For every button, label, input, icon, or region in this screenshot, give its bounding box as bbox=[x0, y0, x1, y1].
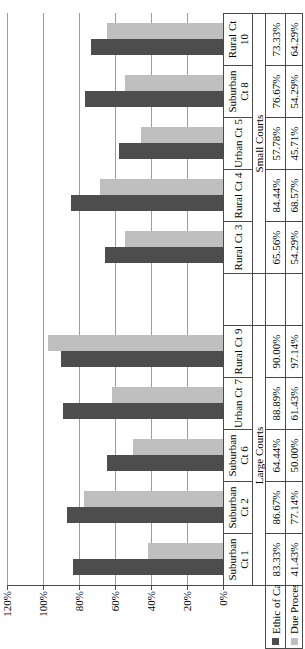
bar-due-process-2 bbox=[133, 439, 223, 455]
value-cell: 83.33% bbox=[266, 533, 285, 585]
value-row-ethic-of-care: 83.33%86.67%64.44%88.89%90.00%65.56%84.4… bbox=[265, 13, 285, 586]
gridline bbox=[43, 13, 44, 585]
value-cell: 45.71% bbox=[286, 117, 302, 169]
bar-ethic-of-care-10 bbox=[91, 39, 223, 55]
value-cell: 64.44% bbox=[266, 429, 285, 481]
group-cell: Large Courts bbox=[253, 325, 265, 585]
category-cell: Suburban Ct 6 bbox=[224, 429, 252, 481]
category-label-row: Suburban Ct 1Suburban Ct 2Suburban Ct 6U… bbox=[223, 13, 252, 586]
legend-label-ethic-of-care: Ethic of Care bbox=[270, 585, 282, 634]
axis-tick bbox=[223, 586, 224, 590]
category-cell: Suburban Ct 2 bbox=[224, 481, 252, 533]
value-cell: 88.89% bbox=[266, 377, 285, 429]
y-axis-tick-label: 0% bbox=[216, 591, 230, 649]
bar-due-process-9 bbox=[125, 75, 223, 91]
bar-ethic-of-care-7 bbox=[71, 195, 223, 211]
category-cell: Urban Ct 5 bbox=[224, 117, 252, 169]
bar-ethic-of-care-9 bbox=[85, 91, 223, 107]
value-cell: 41.43% bbox=[286, 533, 302, 585]
value-row-due-process: 41.43%77.14%50.00%61.43%97.14%54.29%68.5… bbox=[285, 13, 303, 586]
y-axis-tick-label: 60% bbox=[108, 591, 122, 649]
value-cell: 84.44% bbox=[266, 169, 285, 221]
axis-tick bbox=[7, 586, 8, 590]
value-cell: 50.00% bbox=[286, 429, 302, 481]
bar-due-process-1 bbox=[84, 491, 223, 507]
value-cell: 54.29% bbox=[286, 65, 302, 117]
axis-tick bbox=[79, 586, 80, 590]
bar-ethic-of-care-1 bbox=[67, 507, 223, 523]
value-cell: 65.56% bbox=[266, 221, 285, 273]
value-cell: 76.67% bbox=[266, 65, 285, 117]
category-cell: Suburban Ct 1 bbox=[224, 533, 252, 585]
category-cell-empty bbox=[224, 273, 252, 325]
bar-ethic-of-care-8 bbox=[119, 143, 223, 159]
value-cell: 57.78% bbox=[266, 117, 285, 169]
bar-ethic-of-care-0 bbox=[73, 559, 223, 575]
ethic-of-care-swatch-icon bbox=[272, 638, 279, 645]
category-cell: Rural Ct 3 bbox=[224, 221, 252, 273]
value-cell: 64.29% bbox=[286, 13, 302, 65]
value-cell-empty bbox=[286, 273, 302, 325]
bar-due-process-3 bbox=[112, 387, 223, 403]
category-cell: Urban Ct 7 bbox=[224, 377, 252, 429]
axis-tick bbox=[43, 586, 44, 590]
category-cell: Rural Ct 9 bbox=[224, 325, 252, 377]
axis-tick bbox=[187, 586, 188, 590]
value-cell: 90.00% bbox=[266, 325, 285, 377]
legend-label-due-process: Due Process bbox=[288, 585, 300, 634]
bar-due-process-4 bbox=[48, 335, 223, 351]
gridline bbox=[7, 13, 8, 585]
axis-tick bbox=[151, 586, 152, 590]
bar-chart: 0%20%40%60%80%100%120% Suburban Ct 1Subu… bbox=[0, 0, 305, 649]
y-axis-tick-label: 120% bbox=[0, 591, 14, 649]
value-cell: 54.29% bbox=[286, 221, 302, 273]
group-cell-empty bbox=[253, 273, 265, 325]
value-cell: 61.43% bbox=[286, 377, 302, 429]
group-cell: Small Courts bbox=[253, 13, 265, 273]
y-axis-tick-label: 20% bbox=[180, 591, 194, 649]
category-group-row: Large CourtsSmall Courts bbox=[252, 13, 265, 586]
category-cell: Suburban Ct 8 bbox=[224, 65, 252, 117]
gridline bbox=[79, 13, 80, 585]
due-process-swatch-icon bbox=[291, 638, 298, 645]
axis-tick bbox=[115, 586, 116, 590]
bar-ethic-of-care-2 bbox=[107, 455, 223, 471]
value-cell: 97.14% bbox=[286, 325, 302, 377]
legend-item-due-process: Due Process bbox=[285, 585, 303, 649]
bar-due-process-8 bbox=[141, 127, 223, 143]
category-cell: Rural Ct 4 bbox=[224, 169, 252, 221]
y-axis-tick-label: 80% bbox=[72, 591, 86, 649]
value-cell: 86.67% bbox=[266, 481, 285, 533]
bar-due-process-7 bbox=[100, 179, 223, 195]
value-cell-empty bbox=[266, 273, 285, 325]
rotated-chart-figure: 0%20%40%60%80%100%120% Suburban Ct 1Subu… bbox=[0, 0, 305, 649]
bar-due-process-6 bbox=[125, 231, 223, 247]
bar-due-process-0 bbox=[148, 543, 223, 559]
bar-ethic-of-care-4 bbox=[61, 351, 223, 367]
category-cell: Rural Ct 10 bbox=[224, 13, 252, 65]
value-cell: 77.14% bbox=[286, 481, 302, 533]
y-axis-tick-label: 100% bbox=[36, 591, 50, 649]
legend-item-ethic-of-care: Ethic of Care bbox=[265, 585, 285, 649]
bar-ethic-of-care-3 bbox=[63, 403, 223, 419]
bar-due-process-10 bbox=[107, 23, 223, 39]
y-axis-tick-label: 40% bbox=[144, 591, 158, 649]
value-cell: 68.57% bbox=[286, 169, 302, 221]
value-cell: 73.33% bbox=[266, 13, 285, 65]
bar-ethic-of-care-6 bbox=[105, 247, 223, 263]
